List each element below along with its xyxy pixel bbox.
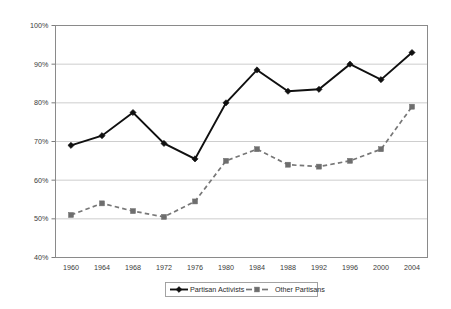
x-axis-tick-label: 1964 <box>94 263 110 272</box>
y-axis-tick-label: 60% <box>34 176 49 185</box>
data-point-marker <box>317 164 322 169</box>
x-axis-tick-label: 1976 <box>187 263 203 272</box>
y-axis-tick-label: 90% <box>34 60 49 69</box>
x-axis-tick-label: 1984 <box>249 263 265 272</box>
square-marker-icon <box>255 287 260 292</box>
x-axis-tick-label: 1972 <box>156 263 172 272</box>
series-markers-partisan-activists <box>68 49 415 162</box>
x-axis-tick-label: 2000 <box>373 263 389 272</box>
y-axis-tick-label: 80% <box>34 98 49 107</box>
y-axis-tick-label: 40% <box>34 253 49 262</box>
line-chart: 40%50%60%70%80%90%100% 19601964196819721… <box>0 0 451 309</box>
y-tick-marks-group <box>52 26 56 258</box>
chart-legend[interactable]: Partisan Activists Other Partisans <box>166 283 326 297</box>
y-axis-tick-label: 70% <box>34 137 49 146</box>
x-axis-tick-label: 1988 <box>280 263 296 272</box>
data-point-marker <box>68 142 74 148</box>
data-point-marker <box>69 212 74 217</box>
chart-canvas: 40%50%60%70%80%90%100% 19601964196819721… <box>0 0 451 309</box>
x-axis-tick-label: 2004 <box>404 263 420 272</box>
legend-label-partisan-activists: Partisan Activists <box>190 285 245 294</box>
data-point-marker <box>162 214 167 219</box>
data-point-marker <box>410 104 415 109</box>
series-line-partisan-activists <box>71 53 412 159</box>
data-point-marker <box>348 158 353 163</box>
x-axis-tick-label: 1980 <box>218 263 234 272</box>
data-point-marker <box>193 199 198 204</box>
y-axis-tick-label: 50% <box>34 214 49 223</box>
data-point-marker <box>100 201 105 206</box>
y-axis-labels-group: 40%50%60%70%80%90%100% <box>30 21 49 262</box>
series-line-other-partisans <box>71 107 412 217</box>
x-axis-tick-label: 1992 <box>311 263 327 272</box>
x-axis-tick-label: 1960 <box>63 263 79 272</box>
legend-label-other-partisans: Other Partisans <box>275 285 325 294</box>
data-point-marker <box>131 209 136 214</box>
x-axis-tick-label: 1968 <box>125 263 141 272</box>
x-axis-labels-group: 1960196419681972197619801984198819921996… <box>63 263 420 272</box>
data-point-marker <box>379 147 384 152</box>
data-point-marker <box>255 147 260 152</box>
data-point-marker <box>286 162 291 167</box>
y-axis-tick-label: 100% <box>30 21 49 30</box>
x-axis-tick-label: 1996 <box>342 263 358 272</box>
data-point-marker <box>224 158 229 163</box>
